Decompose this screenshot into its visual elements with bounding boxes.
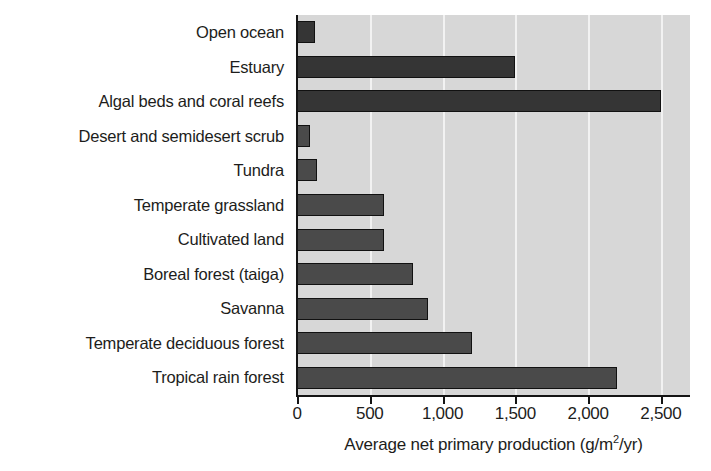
bar-tundra [297,159,317,181]
x-tick-label-2500: 2,500 [640,404,681,424]
bar-estuary [297,56,515,78]
bar-slot [297,119,690,154]
bar-slot [297,15,690,50]
bar-slot [297,188,690,223]
x-axis-tick-labels: 05001,0001,5002,0002,500 [0,404,711,428]
x-tick-label-0: 0 [292,404,301,424]
bar-slot [297,84,690,119]
bar-slot [297,222,690,257]
category-label-estuary: Estuary [0,50,291,85]
category-label-temperate-deciduous-forest: Temperate deciduous forest [0,326,291,361]
category-label-open-ocean: Open ocean [0,15,291,50]
x-tick-label-1500: 1,500 [495,404,536,424]
x-tick-2000 [588,396,590,404]
category-label-tundra: Tundra [0,153,291,188]
x-tick-1000 [443,396,445,404]
x-tick-label-500: 500 [356,404,383,424]
bar-slot [297,360,690,395]
category-label-algal-beds-and-coral-reefs: Algal beds and coral reefs [0,84,291,119]
bar-algal-beds-and-coral-reefs [297,90,661,112]
bar-slot [297,291,690,326]
x-tick-2500 [661,396,663,404]
category-label-boreal-forest-taiga: Boreal forest (taiga) [0,257,291,292]
category-label-tropical-rain-forest: Tropical rain forest [0,360,291,395]
category-label-cultivated-land: Cultivated land [0,222,291,257]
bar-slot [297,257,690,292]
category-label-desert-and-semidesert-scrub: Desert and semidesert scrub [0,119,291,154]
bar-savanna [297,298,428,320]
category-axis-labels: Open ocean Estuary Algal beds and coral … [0,15,291,395]
x-tick-500 [370,396,372,404]
x-tick-1500 [515,396,517,404]
bar-slot [297,153,690,188]
bar-boreal-forest-taiga [297,263,413,285]
bars-layer [297,15,690,395]
bar-slot [297,50,690,85]
plot-area [297,15,690,395]
bar-desert-and-semidesert-scrub [297,125,310,147]
bar-chart-figure: Open ocean Estuary Algal beds and coral … [0,0,711,471]
x-axis-title: Average net primary production (g/m2/yr) [297,435,690,455]
bar-temperate-deciduous-forest [297,332,472,354]
bar-tropical-rain-forest [297,367,617,389]
y-axis-line [296,15,298,396]
x-tick-label-1000: 1,000 [422,404,463,424]
bar-slot [297,326,690,361]
x-axis-ticks [297,396,690,404]
x-tick-0 [297,396,299,404]
category-label-temperate-grassland: Temperate grassland [0,188,291,223]
bar-open-ocean [297,21,315,43]
bar-cultivated-land [297,229,384,251]
x-axis-title-suffix: /yr) [619,435,643,454]
x-tick-label-2000: 2,000 [568,404,609,424]
category-label-savanna: Savanna [0,291,291,326]
bar-temperate-grassland [297,194,384,216]
x-axis-title-prefix: Average net primary production (g/m [344,435,613,454]
